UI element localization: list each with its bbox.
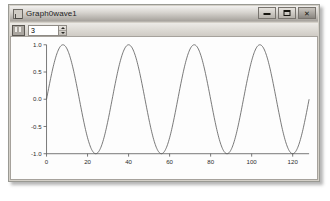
svg-text:0.0: 0.0 — [33, 96, 42, 102]
svg-text:40: 40 — [125, 159, 132, 165]
close-button[interactable]: ✕ — [298, 7, 316, 19]
frequency-icon — [12, 25, 25, 36]
window-controls: ✕ — [258, 7, 316, 19]
svg-text:0.5: 0.5 — [33, 69, 42, 75]
plot-client-area: -1.0-0.50.00.51.0020406080100120 — [10, 36, 318, 180]
waveform-chart: -1.0-0.50.00.51.0020406080100120 — [11, 37, 317, 179]
minimize-button[interactable] — [258, 7, 276, 19]
window-title: Graph0wave1 — [26, 6, 77, 21]
svg-text:80: 80 — [207, 159, 214, 165]
chart-svg: -1.0-0.50.00.51.0020406080100120 — [11, 37, 317, 179]
svg-text:60: 60 — [166, 159, 173, 165]
svg-text:120: 120 — [288, 159, 299, 165]
frequency-input[interactable] — [28, 25, 58, 36]
frequency-stepper[interactable] — [28, 25, 67, 36]
svg-text:1.0: 1.0 — [33, 42, 42, 48]
svg-text:20: 20 — [84, 159, 91, 165]
spinner-arrows[interactable] — [58, 25, 67, 36]
svg-text:0: 0 — [45, 159, 49, 165]
graph-window[interactable]: Graph0wave1 ✕ -1.0-0.50.00.51.0020406080… — [8, 4, 320, 182]
maximize-button[interactable] — [278, 7, 296, 19]
close-icon: ✕ — [304, 10, 310, 17]
svg-text:-1.0: -1.0 — [31, 151, 42, 157]
svg-text:100: 100 — [247, 159, 258, 165]
svg-text:-0.5: -0.5 — [31, 124, 42, 130]
window-title-bar[interactable]: Graph0wave1 ✕ — [10, 6, 318, 22]
graph-window-icon — [13, 9, 23, 19]
spinner-down-button[interactable] — [59, 31, 66, 35]
